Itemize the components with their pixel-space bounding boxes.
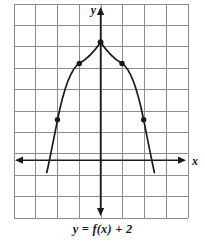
figure-caption: y = f(x) + 2 [0, 222, 205, 237]
y-axis-label: y [89, 3, 97, 17]
figure-background [0, 0, 205, 242]
data-point [119, 61, 124, 66]
data-point [141, 117, 146, 122]
data-point [77, 61, 82, 66]
data-point-vertex [98, 39, 104, 45]
data-point [55, 117, 60, 122]
x-axis-label: x [191, 154, 198, 168]
graph-figure: y x [0, 0, 205, 242]
